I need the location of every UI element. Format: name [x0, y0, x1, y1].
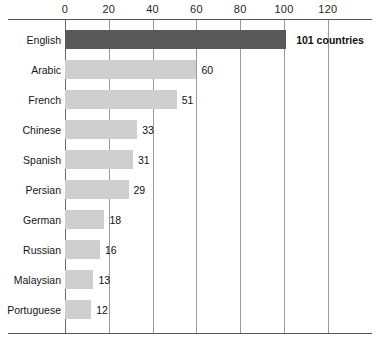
bar-russian[interactable] [65, 240, 100, 259]
bar-malaysian[interactable] [65, 270, 93, 289]
bar-row[interactable]: French51 [0, 90, 384, 109]
x-tick-label-80: 80 [234, 2, 247, 16]
category-label-spanish: Spanish [23, 153, 61, 166]
bar-value-label-russian: 16 [105, 243, 117, 256]
bar-row[interactable]: German18 [0, 210, 384, 229]
bar-value-label-persian: 29 [134, 183, 146, 196]
bar-row[interactable]: Persian29 [0, 180, 384, 199]
category-label-russian: Russian [23, 243, 61, 256]
category-label-portuguese: Portuguese [7, 303, 61, 316]
chart-bottom-rule [8, 333, 372, 334]
bar-chinese[interactable] [65, 120, 137, 139]
bar-portuguese[interactable] [65, 300, 91, 319]
x-tick-label-0: 0 [62, 2, 68, 16]
bar-row[interactable]: Russian16 [0, 240, 384, 259]
category-label-french: French [28, 93, 61, 106]
bar-chart: 020406080100120 English101 countriesArab… [0, 0, 384, 343]
bar-german[interactable] [65, 210, 104, 229]
bar-row[interactable]: Malaysian13 [0, 270, 384, 289]
bar-french[interactable] [65, 90, 177, 109]
bar-spanish[interactable] [65, 150, 133, 169]
category-label-chinese: Chinese [22, 123, 61, 136]
plot-area: English101 countriesArabic60French51Chin… [0, 20, 384, 334]
bar-value-label-portuguese: 12 [96, 303, 108, 316]
category-label-persian: Persian [25, 183, 61, 196]
bar-value-label-german: 18 [109, 213, 121, 226]
category-label-english: English [27, 33, 61, 46]
x-tick-label-100: 100 [275, 2, 294, 16]
x-tick-label-20: 20 [102, 2, 115, 16]
bar-row[interactable]: Portuguese12 [0, 300, 384, 319]
category-label-malaysian: Malaysian [14, 273, 61, 286]
bar-value-label-arabic: 60 [201, 63, 213, 76]
bar-row[interactable]: Chinese33 [0, 120, 384, 139]
x-tick-label-120: 120 [318, 2, 337, 16]
bar-value-label-french: 51 [182, 93, 194, 106]
bar-row[interactable]: English101 countries [0, 30, 384, 49]
bar-value-label-chinese: 33 [142, 123, 154, 136]
bar-value-label-spanish: 31 [138, 153, 150, 166]
bar-value-label-malaysian: 13 [98, 273, 110, 286]
x-axis-tick-labels: 020406080100120 [0, 0, 384, 20]
bar-persian[interactable] [65, 180, 129, 199]
bar-arabic[interactable] [65, 60, 196, 79]
bar-row[interactable]: Arabic60 [0, 60, 384, 79]
bar-row[interactable]: Spanish31 [0, 150, 384, 169]
x-tick-label-60: 60 [190, 2, 203, 16]
x-tick-label-40: 40 [146, 2, 159, 16]
category-label-arabic: Arabic [31, 63, 61, 76]
bar-english[interactable] [65, 30, 286, 49]
bar-value-label-english: 101 countries [296, 33, 364, 46]
category-label-german: German [23, 213, 61, 226]
